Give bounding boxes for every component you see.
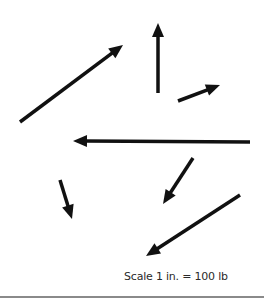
- vector-diagram: [0, 0, 264, 306]
- arrowhead-icon: [73, 135, 87, 147]
- divider-line: [0, 296, 264, 298]
- arrow-C: [178, 84, 220, 101]
- scale-label: Scale 1 in. = 100 lb: [124, 270, 228, 283]
- arrowhead-icon: [62, 204, 73, 219]
- arrow-D: [73, 135, 250, 147]
- arrow-G: [146, 195, 240, 256]
- arrow-shaft: [60, 180, 68, 208]
- arrow-B: [152, 23, 164, 93]
- arrow-shaft: [85, 141, 250, 142]
- arrow-shaft: [178, 89, 209, 101]
- arrow-shaft: [20, 52, 113, 122]
- arrowhead-icon: [205, 84, 220, 95]
- arrow-shaft: [156, 195, 240, 249]
- arrow-A: [20, 45, 123, 122]
- arrow-F: [163, 158, 193, 204]
- arrowhead-icon: [152, 23, 164, 37]
- arrow-shaft: [170, 158, 193, 194]
- arrow-E: [60, 180, 74, 219]
